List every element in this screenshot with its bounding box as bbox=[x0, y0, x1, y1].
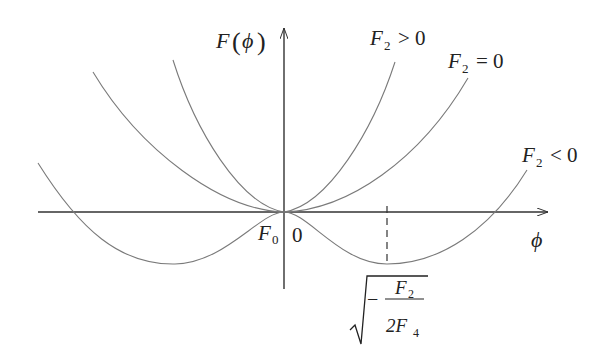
svg-text:F: F bbox=[521, 143, 535, 167]
svg-text:2: 2 bbox=[462, 61, 469, 76]
svg-text:= 0: = 0 bbox=[476, 49, 504, 73]
x-axis-label: ϕ bbox=[531, 227, 542, 252]
y-axis-paren-close: ) bbox=[257, 27, 266, 56]
svg-text:2: 2 bbox=[384, 38, 391, 53]
y-axis-paren-open: ( bbox=[232, 27, 241, 56]
svg-text:F: F bbox=[447, 49, 461, 73]
svg-text:F: F bbox=[369, 26, 383, 50]
y-axis-label: F bbox=[215, 28, 230, 53]
svg-text:4: 4 bbox=[413, 326, 419, 340]
f0-label: F bbox=[257, 221, 271, 245]
svg-text:2: 2 bbox=[536, 155, 543, 170]
free-energy-diagram: F ( ϕ ) ϕ F 0 0 F 2 > 0 F 2 = 0 F 2 < 0 … bbox=[0, 0, 615, 361]
zero-label: 0 bbox=[292, 223, 303, 247]
svg-text:F: F bbox=[394, 277, 407, 298]
svg-text:> 0: > 0 bbox=[398, 26, 426, 50]
curve-f2-zero bbox=[93, 72, 468, 212]
svg-text:2: 2 bbox=[408, 287, 414, 301]
minimum-formula: − F 2 2F 4 bbox=[350, 276, 428, 344]
label-f2-positive: F 2 > 0 bbox=[369, 26, 426, 53]
svg-text:−: − bbox=[367, 288, 378, 310]
svg-text:2F: 2F bbox=[386, 315, 408, 336]
f0-subscript: 0 bbox=[272, 232, 279, 247]
y-axis-arg: ϕ bbox=[242, 28, 253, 53]
svg-text:< 0: < 0 bbox=[550, 143, 578, 167]
curve-f2-negative bbox=[38, 163, 527, 264]
label-f2-zero: F 2 = 0 bbox=[447, 49, 504, 76]
label-f2-negative: F 2 < 0 bbox=[521, 143, 578, 170]
